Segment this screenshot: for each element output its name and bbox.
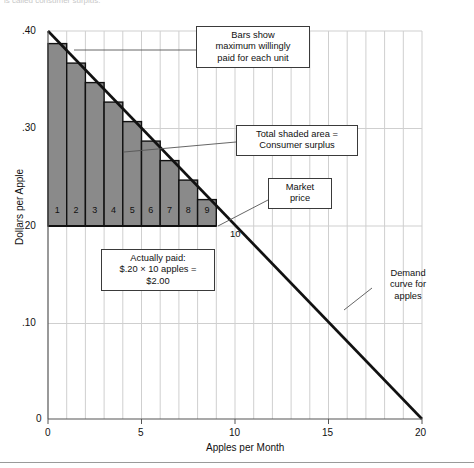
- callout-actually-paid: Actually paid: $.20 × 10 apples = $2.00: [101, 249, 215, 291]
- demand-curve-label-line3: apples: [372, 291, 444, 302]
- quantity-marker-label: 10: [230, 228, 241, 239]
- y-axis-title: Dollars per Apple: [14, 169, 25, 245]
- bar-2: [67, 63, 86, 226]
- x-axis-ticks: [48, 419, 422, 424]
- callout-bars-note: Bars show maximum willingly paid for eac…: [196, 26, 310, 68]
- callout-market-price-line2: price: [275, 193, 325, 204]
- x-tick-label-5: 5: [138, 427, 144, 438]
- y-tick-label-30: .30: [22, 122, 36, 133]
- bar-label-8: 8: [179, 205, 198, 215]
- bar-label-9: 9: [198, 205, 217, 215]
- callout-actually-paid-line1: Actually paid:: [108, 253, 208, 264]
- bar-8: [179, 180, 198, 226]
- callout-market-price: Market price: [268, 178, 332, 209]
- x-axis-title: Apples per Month: [206, 442, 284, 453]
- demand-curve-label: Demand curve for apples: [372, 268, 444, 302]
- bar-label-6: 6: [142, 205, 161, 215]
- x-tick-label-15: 15: [322, 427, 333, 438]
- callout-market-price-line1: Market: [275, 182, 325, 193]
- bar-label-1: 1: [48, 205, 67, 215]
- bottom-divider: [0, 462, 474, 463]
- callout-actually-paid-line2: $.20 × 10 apples =: [108, 264, 208, 275]
- demand-curve-label-line2: curve for: [372, 279, 444, 290]
- bar-7: [160, 161, 179, 226]
- callout-surplus-note: Total shaded area = Consumer surplus: [236, 125, 358, 156]
- bar-label-5: 5: [123, 205, 142, 215]
- callout-bars-note-line1: Bars show: [203, 30, 303, 41]
- demand-curve-label-line1: Demand: [372, 268, 444, 279]
- x-tick-label-20: 20: [415, 427, 426, 438]
- bar-label-3: 3: [85, 205, 104, 215]
- figure-canvas: is called consumer surplus.: [0, 0, 474, 468]
- y-tick-label-10: .10: [22, 317, 36, 328]
- x-tick-label-0: 0: [45, 427, 51, 438]
- callout-actually-paid-line3: $2.00: [108, 276, 208, 287]
- callout-surplus-note-line2: Consumer surplus: [243, 140, 351, 151]
- bar-label-7: 7: [160, 205, 179, 215]
- callout-bars-note-line2: maximum willingly: [203, 41, 303, 52]
- y-tick-label-40: .40: [22, 25, 36, 36]
- leader-market-price: [218, 200, 268, 226]
- bar-label-2: 2: [67, 205, 86, 215]
- bar-label-4: 4: [104, 205, 123, 215]
- surplus-bars: [48, 44, 216, 226]
- callout-surplus-note-line1: Total shaded area =: [243, 129, 351, 140]
- callout-bars-note-line3: paid for each unit: [203, 53, 303, 64]
- x-tick-label-10: 10: [229, 427, 240, 438]
- leader-demand-note: [344, 288, 372, 310]
- y-tick-label-0: 0: [36, 413, 42, 424]
- bar-1: [48, 44, 67, 226]
